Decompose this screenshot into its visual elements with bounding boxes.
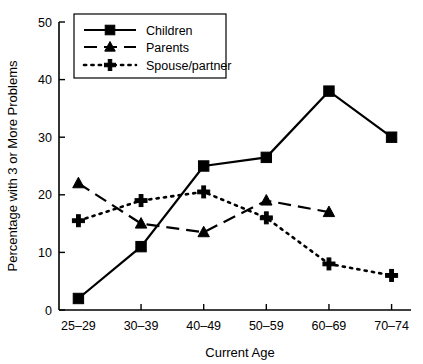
line-chart: 01020304050 25–2930–3940–4950–5960–6970–… bbox=[0, 0, 423, 364]
x-tick-label: 70–74 bbox=[374, 319, 409, 333]
x-tick-label: 40–49 bbox=[186, 319, 221, 333]
x-tick-label: 50–59 bbox=[249, 319, 284, 333]
legend-label: Spouse/partner bbox=[146, 59, 231, 73]
y-tick-label: 30 bbox=[38, 131, 52, 145]
marker-square bbox=[261, 152, 271, 162]
y-axis: 01020304050 bbox=[38, 16, 65, 318]
marker-plus bbox=[327, 258, 331, 270]
marker-square bbox=[136, 241, 146, 251]
marker-square bbox=[386, 132, 396, 142]
y-tick-label: 10 bbox=[38, 246, 52, 260]
marker-triangle bbox=[73, 177, 84, 188]
marker-square bbox=[105, 25, 115, 35]
marker-plus bbox=[139, 195, 143, 207]
series-line bbox=[78, 192, 391, 276]
series-layer bbox=[72, 86, 397, 304]
marker-plus bbox=[202, 186, 206, 198]
x-axis-title: Current Age bbox=[205, 345, 274, 360]
x-tick-label: 30–39 bbox=[124, 319, 159, 333]
series-spouse-partner bbox=[72, 186, 397, 282]
y-tick-label: 50 bbox=[38, 16, 52, 30]
marker-plus bbox=[108, 59, 111, 70]
legend-label: Parents bbox=[146, 41, 189, 55]
marker-triangle bbox=[198, 226, 209, 237]
marker-square bbox=[324, 86, 334, 96]
marker-plus bbox=[264, 212, 268, 224]
x-tick-label: 60–69 bbox=[312, 319, 347, 333]
x-axis: 25–2930–3940–4950–5960–6970–74 bbox=[59, 304, 411, 333]
marker-triangle bbox=[261, 195, 272, 206]
y-axis-title: Percentage with 3 or More Problems bbox=[5, 60, 20, 271]
marker-triangle bbox=[135, 218, 146, 229]
marker-plus bbox=[77, 215, 81, 227]
marker-square bbox=[73, 293, 83, 303]
y-tick-label: 40 bbox=[38, 73, 52, 87]
x-tick-label: 25–29 bbox=[61, 319, 96, 333]
chart-legend: ChildrenParentsSpouse/partner bbox=[74, 14, 231, 78]
marker-plus bbox=[390, 269, 394, 281]
marker-square bbox=[198, 161, 208, 171]
chart-container: 01020304050 25–2930–3940–4950–5960–6970–… bbox=[0, 0, 423, 364]
y-tick-label: 0 bbox=[45, 304, 52, 318]
series-children bbox=[73, 86, 397, 304]
legend-label: Children bbox=[146, 24, 193, 38]
y-tick-label: 20 bbox=[38, 188, 52, 202]
